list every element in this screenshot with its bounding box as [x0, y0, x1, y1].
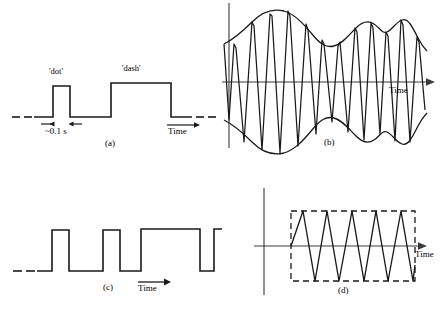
- panel-a-svg: [0, 0, 222, 155]
- panel-d-time-label: Time: [415, 250, 434, 259]
- panel-d-plot: [222, 155, 445, 310]
- duration-label: ~0.1 s: [45, 127, 67, 136]
- panel-a-pulse-train: [34, 83, 192, 117]
- panel-d-svg: [222, 155, 445, 310]
- time-arrow-head: [194, 122, 200, 128]
- panel-b-x-axis-arrow: [426, 78, 435, 86]
- panel-d-caption: (d): [338, 286, 349, 295]
- panel-a-plot: [0, 0, 222, 155]
- panel-c-square-wave: [37, 229, 222, 271]
- panel-b-caption: (b): [324, 138, 335, 147]
- panel-b: Time (b): [222, 0, 445, 155]
- panel-b-time-label: Time: [389, 86, 408, 95]
- signal-waveform-figure: 'dot' 'dash' ~0.1 s Time (a) Time (b): [0, 0, 445, 310]
- panel-c-caption: (c): [103, 283, 113, 292]
- panel-a: 'dot' 'dash' ~0.1 s Time (a): [0, 0, 222, 155]
- panel-b-plot: [222, 0, 445, 155]
- panel-d: Time (d): [222, 155, 445, 310]
- duration-arrow-right-head: [69, 122, 74, 127]
- dot-label: 'dot': [49, 67, 63, 76]
- panel-a-time-label: Time: [168, 127, 187, 136]
- panel-c-time-label: Time: [138, 284, 157, 293]
- dash-label: 'dash': [122, 64, 141, 73]
- panel-c-time-arrow-head: [164, 279, 171, 286]
- panel-a-caption: (a): [105, 139, 115, 148]
- panel-c: Time (c): [0, 155, 222, 310]
- panel-b-svg: [222, 0, 445, 155]
